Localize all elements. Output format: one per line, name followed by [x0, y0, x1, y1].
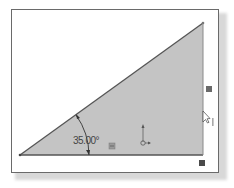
vertex-origin[interactable]	[19, 154, 22, 157]
sketch-canvas[interactable]: 35.00°	[0, 0, 234, 188]
angle-dimension-text[interactable]: 35.00°	[73, 135, 100, 146]
horizontal-relation-icon[interactable]	[109, 143, 115, 149]
mouse-pointer-icon	[203, 111, 214, 126]
fixed-relation-icon[interactable]	[199, 160, 205, 166]
vertex-top[interactable]	[202, 22, 205, 25]
vertical-relation-icon[interactable]	[206, 86, 212, 92]
